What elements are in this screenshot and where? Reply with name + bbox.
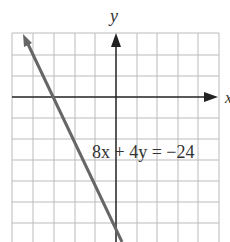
x-axis-arrow-icon [204,92,218,102]
plotted-line [23,34,122,242]
y-axis-label: y [108,6,118,26]
graph: y x 8x + 4y = −24 [0,0,230,242]
x-axis-label: x [224,89,230,106]
equation-label: 8x + 4y = −24 [92,142,194,162]
line-arrow-icon [23,34,32,47]
x-axis [12,92,218,102]
y-axis [111,33,121,242]
y-axis-arrow-icon [111,33,121,47]
